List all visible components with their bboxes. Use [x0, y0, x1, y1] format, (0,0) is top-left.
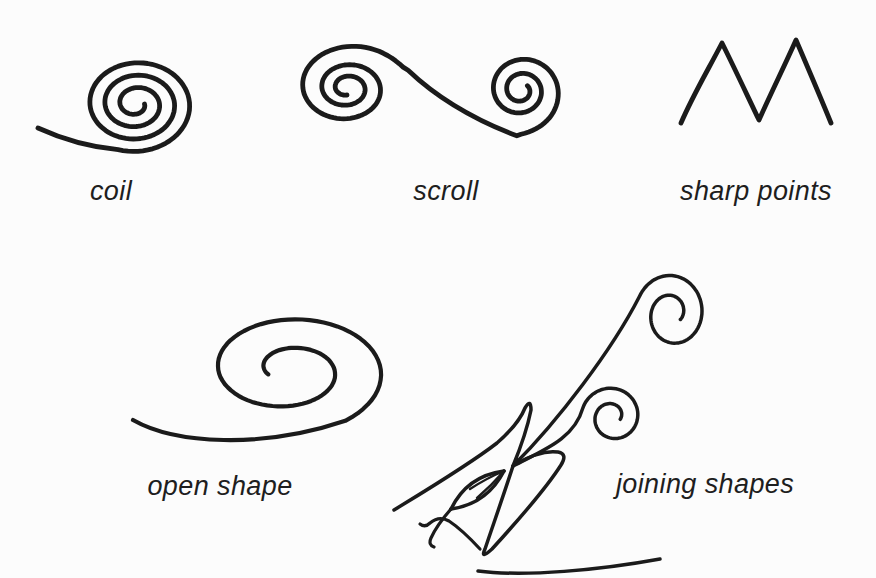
scroll-s-curve-drawing [303, 46, 559, 136]
coil-spiral-drawing [38, 63, 190, 152]
ribbon-end-stroke-1 [430, 509, 451, 547]
figure-open-shape [133, 319, 381, 440]
scanned-book-page: { "page": { "background_color": "#fcfcfc… [0, 0, 876, 578]
page-background: coil scroll sharp points open shape join… [0, 0, 876, 578]
figure-coil [38, 63, 190, 152]
figure-sharp-points [681, 40, 831, 123]
figure-scroll [303, 46, 559, 136]
small-curl-stem-stroke [513, 388, 638, 466]
open-spiral-drawing [133, 319, 381, 440]
label-sharp-points: sharp points [680, 178, 832, 205]
label-coil: coil [90, 178, 132, 205]
leaf-lens-lower-side [451, 471, 504, 509]
sharp-points-zigzag-drawing [681, 40, 831, 123]
label-joining-shapes: joining shapes [616, 471, 794, 498]
leaf-lens-upper-side [451, 471, 504, 509]
figure-joining-shapes [394, 276, 702, 574]
label-open-shape: open shape [147, 473, 292, 500]
lower-petal-stroke [484, 452, 564, 555]
label-scroll: scroll [413, 178, 478, 205]
bottom-sweep-stroke [478, 559, 660, 573]
